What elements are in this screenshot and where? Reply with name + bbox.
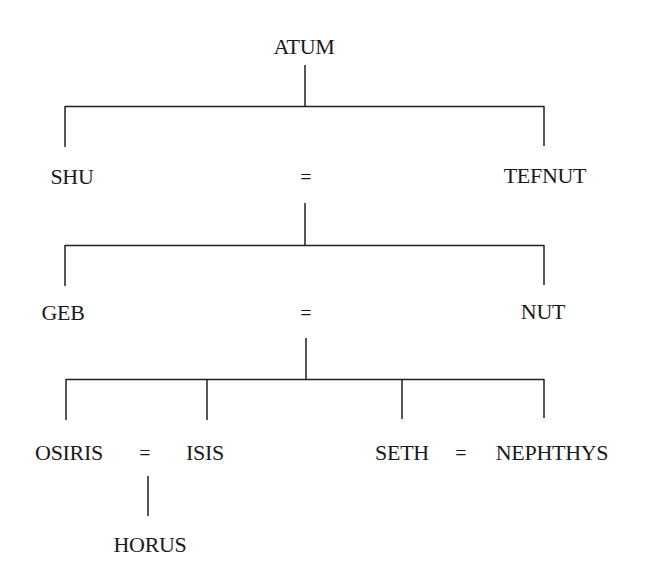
family-tree-diagram: ATUM SHU = TEFNUT GEB = NUT OSIRIS = ISI…	[0, 0, 647, 582]
tree-connector-lines	[0, 0, 647, 582]
union-symbol-seth-nephthys: =	[455, 443, 466, 463]
node-atum: ATUM	[273, 36, 334, 58]
union-symbol-osiris-isis: =	[139, 443, 150, 463]
node-seth: SETH	[375, 442, 429, 464]
node-osiris: OSIRIS	[35, 442, 103, 464]
node-tefnut: TEFNUT	[504, 165, 587, 187]
node-horus: HORUS	[113, 534, 186, 556]
node-geb: GEB	[41, 302, 84, 324]
node-nephthys: NEPHTHYS	[496, 442, 609, 464]
node-nut: NUT	[521, 301, 565, 323]
node-shu: SHU	[50, 166, 93, 188]
union-symbol-shu-tefnut: =	[300, 167, 311, 187]
union-symbol-geb-nut: =	[300, 303, 311, 323]
node-isis: ISIS	[186, 442, 224, 464]
